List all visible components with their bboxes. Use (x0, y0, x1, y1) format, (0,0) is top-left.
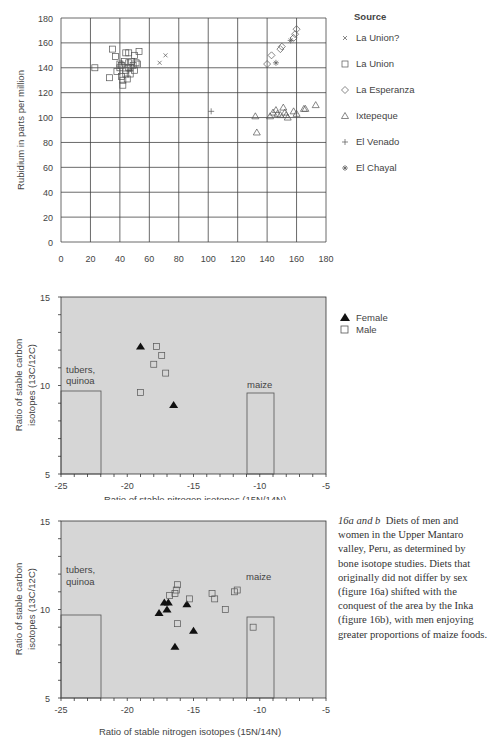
y-tick-label: 10 (40, 381, 50, 391)
point-triangle (312, 102, 319, 108)
x-tick-label: 100 (201, 254, 216, 264)
y-tick-label: 140 (38, 63, 53, 73)
caption-lead: 16a and b (338, 515, 380, 526)
grid (61, 18, 326, 242)
legend-male: Male (356, 324, 377, 335)
point-square (132, 52, 138, 58)
x-tick-label: 0 (58, 254, 63, 264)
legend-item-label: La Union? (356, 32, 399, 43)
y-tick-label: 0 (48, 238, 53, 248)
x-tick-label: 120 (230, 254, 245, 264)
legend-item-label: El Chayal (356, 162, 397, 173)
legend-title: Source (354, 11, 386, 22)
legend-square-icon (342, 61, 348, 67)
legend-triangle-icon (342, 113, 349, 119)
point-asterisk (273, 60, 279, 66)
legend: Source La Union?La UnionLa EsperanzaIxte… (342, 11, 416, 173)
data-points (92, 26, 319, 135)
x-tick-label: 140 (260, 254, 275, 264)
point-x (158, 61, 162, 65)
y-tick-label: 5 (45, 470, 50, 480)
y-tick-label: 40 (43, 188, 53, 198)
y-axis-label-line2: isotopes (13C/12C) (26, 344, 37, 426)
y-tick-label: 15 (40, 293, 50, 303)
legend-x-icon (343, 36, 347, 40)
x-tick-label: -25 (54, 481, 67, 491)
y-tick-label: 160 (38, 38, 53, 48)
y-tick-label: 100 (38, 113, 53, 123)
y-axis-label: Rubidium in parts per million (15, 70, 26, 190)
x-tick-label: -5 (322, 481, 330, 491)
point-diamond (268, 52, 275, 59)
y-axis-label-line1: Ratio of stable carbon (13, 339, 24, 431)
y-tick-label: 15 (40, 517, 50, 527)
tubers-label: tubers, (66, 564, 95, 575)
legend-item-label: El Venado (356, 136, 399, 147)
isotope-chart-16b: tubers, quinoa maize 51015-25-20-15-10-5… (0, 509, 340, 742)
female-triangle-icon (340, 313, 350, 321)
y-tick-label: 5 (45, 694, 50, 704)
point-triangle (280, 104, 287, 110)
maize-label: maize (247, 379, 272, 390)
male-square-icon (341, 326, 348, 333)
y-tick-label: 10 (40, 605, 50, 615)
figure-caption: 16a and b Diets of men and women in the … (338, 514, 488, 642)
legend-item-label: Ixtepeque (356, 110, 398, 121)
y-tick-label: 20 (43, 213, 53, 223)
legend-plus-icon (342, 139, 348, 145)
y-tick-label: 80 (43, 138, 53, 148)
legend-item-label: La Esperanza (356, 84, 415, 95)
x-axis-label: Ratio of stable nitrogen isotopes (15N/1… (104, 494, 286, 500)
legend-item-label: La Union (356, 58, 394, 69)
x-tick-label: 180 (318, 254, 333, 264)
point-x (164, 53, 168, 57)
x-tick-label: -10 (253, 481, 266, 491)
x-tick-label: 60 (144, 254, 154, 264)
x-tick-label: -15 (187, 705, 200, 715)
point-plus (208, 108, 214, 114)
caption-text: Diets of men and women in the Upper Mant… (338, 515, 487, 640)
y-tick-labels: 020406080100120140160180 (38, 14, 53, 248)
isotope-chart-16a: tubers, quinoa maize 51015-25-20-15-10-5… (0, 285, 485, 500)
maize-label: maize (246, 571, 271, 582)
x-tick-label: 40 (115, 254, 125, 264)
point-square (136, 49, 142, 55)
x-axis-label: Ratio of stable nitrogen isotopes (15N/1… (99, 726, 281, 737)
tubers-label: tubers, (66, 364, 95, 375)
x-tick-label: -15 (187, 481, 200, 491)
quinoa-label: quinoa (66, 375, 95, 386)
point-square (107, 75, 113, 81)
legend-female: Female (356, 312, 388, 323)
y-axis-label-line2: isotopes (13C/12C) (26, 568, 37, 650)
y-tick-label: 180 (38, 14, 53, 24)
quinoa-label: quinoa (66, 576, 95, 587)
x-tick-label: 20 (85, 254, 95, 264)
y-tick-label: 60 (43, 163, 53, 173)
x-tick-label: -20 (121, 481, 134, 491)
legend-asterisk-icon (342, 165, 348, 171)
x-tick-label: -25 (54, 705, 67, 715)
x-tick-label: -5 (322, 705, 330, 715)
x-tick-label: -20 (121, 705, 134, 715)
x-tick-labels: 020406080100120140160180 (58, 254, 333, 264)
point-square (112, 54, 118, 60)
x-tick-label: -10 (253, 705, 266, 715)
point-square (110, 46, 116, 52)
point-triangle (253, 129, 260, 135)
x-tick-label: 160 (289, 254, 304, 264)
legend-diamond-icon (342, 87, 349, 94)
rubidium-strontium-chart: 020406080100120140160180 020406080100120… (0, 0, 485, 270)
y-tick-label: 120 (38, 88, 53, 98)
x-tick-label: 80 (174, 254, 184, 264)
x-axis-label-box: Strontium in parts per million (124, 264, 264, 278)
y-axis-label-line1: Ratio of stable carbon (13, 563, 24, 655)
